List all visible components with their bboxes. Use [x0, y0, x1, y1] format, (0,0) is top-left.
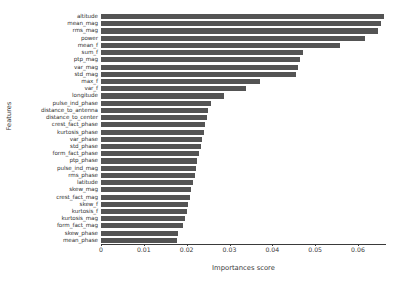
bar-category-label: altitude	[77, 13, 98, 19]
bar	[101, 202, 188, 207]
bar	[101, 173, 195, 178]
bar	[101, 130, 204, 135]
bar	[101, 21, 381, 26]
bar	[101, 86, 246, 91]
bar	[101, 187, 191, 192]
bar-category-label: ptp_mag	[74, 56, 98, 62]
bar	[101, 216, 185, 221]
bar-category-label: skew_f	[80, 201, 98, 207]
bar-category-label: mean_f	[78, 42, 98, 48]
bar	[101, 137, 202, 142]
bar-category-label: kurtosis_f	[72, 208, 98, 214]
bar	[101, 195, 190, 200]
bar-category-label: kurtosis_phase	[57, 129, 98, 135]
bar-category-label: distance_to_center	[46, 114, 98, 120]
plot-area: altitudemean_magrms_magpowermean_fsum_fp…	[101, 13, 386, 244]
bar	[101, 180, 193, 185]
bar-category-label: power	[81, 35, 98, 41]
x-tick-mark	[315, 244, 316, 246]
bar-category-label: max_f	[81, 78, 98, 84]
bar	[101, 158, 197, 163]
bar	[101, 108, 208, 113]
bar	[101, 122, 205, 127]
bar-category-label: mean_mag	[67, 20, 98, 26]
bar-category-label: kurtosis_mag	[61, 215, 98, 221]
x-tick-mark	[358, 244, 359, 246]
x-axis-tick-labels: 00.010.020.030.040.050.06	[0, 246, 397, 258]
bar-category-label: skew_phase	[65, 230, 98, 236]
bar	[101, 115, 207, 120]
x-tick-mark	[272, 244, 273, 246]
bar-category-label: pulse_ind_phase	[53, 100, 98, 106]
bar-category-label: pulse_ind_mag	[57, 165, 98, 171]
bar	[101, 238, 177, 243]
x-tick-mark	[144, 244, 145, 246]
bar-category-label: skew_mag	[69, 186, 98, 192]
x-tick-mark	[187, 244, 188, 246]
bar-category-label: rms_phase	[68, 172, 98, 178]
x-tick-label: 0	[99, 246, 103, 253]
x-tick-mark	[101, 244, 102, 246]
bar	[101, 65, 298, 70]
bar	[101, 43, 340, 48]
x-axis-label: Importances score	[101, 264, 386, 272]
bar-category-label: var_f	[84, 85, 98, 91]
bar	[101, 151, 199, 156]
x-tick-label: 0.01	[137, 246, 151, 253]
bar-category-label: std_mag	[74, 71, 98, 77]
bar-category-label: var_mag	[74, 64, 98, 70]
bar-category-label: crest_fact_mag	[56, 194, 98, 200]
x-tick-label: 0.03	[223, 246, 237, 253]
bar-category-label: rms_mag	[73, 27, 98, 33]
bar	[101, 209, 187, 214]
bar-category-label: std_phase	[70, 143, 98, 149]
bar-category-label: form_fact_mag	[57, 222, 98, 228]
bar-category-label: latitude	[77, 179, 98, 185]
bar	[101, 72, 296, 77]
bar	[101, 223, 183, 228]
bar-category-label: longitude	[72, 92, 98, 98]
bar	[101, 57, 300, 62]
bar	[101, 144, 201, 149]
bar-category-label: sum_f	[82, 49, 98, 55]
figure-feature-importances: Features altitudemean_magrms_magpowermea…	[0, 0, 397, 281]
bar	[101, 14, 384, 19]
bar	[101, 28, 378, 33]
bar	[101, 79, 260, 84]
bar	[101, 93, 224, 98]
x-tick-label: 0.02	[180, 246, 194, 253]
x-tick-label: 0.05	[308, 246, 322, 253]
x-tick-label: 0.06	[351, 246, 365, 253]
bar	[101, 101, 211, 106]
bar	[101, 166, 196, 171]
bar-category-label: ptp_phase	[69, 157, 98, 163]
bar	[101, 50, 303, 55]
bar-category-label: crest_fact_phase	[52, 121, 98, 127]
bar	[101, 36, 365, 41]
bar-category-label: var_phase	[70, 136, 98, 142]
x-tick-mark	[230, 244, 231, 246]
y-axis-label: Features	[5, 86, 13, 146]
bar	[101, 231, 178, 236]
bar-category-label: form_fact_phase	[53, 150, 98, 156]
x-tick-label: 0.04	[265, 246, 279, 253]
bar-category-label: distance_to_antenna	[41, 107, 98, 113]
bar-category-label: mean_phase	[63, 237, 98, 243]
